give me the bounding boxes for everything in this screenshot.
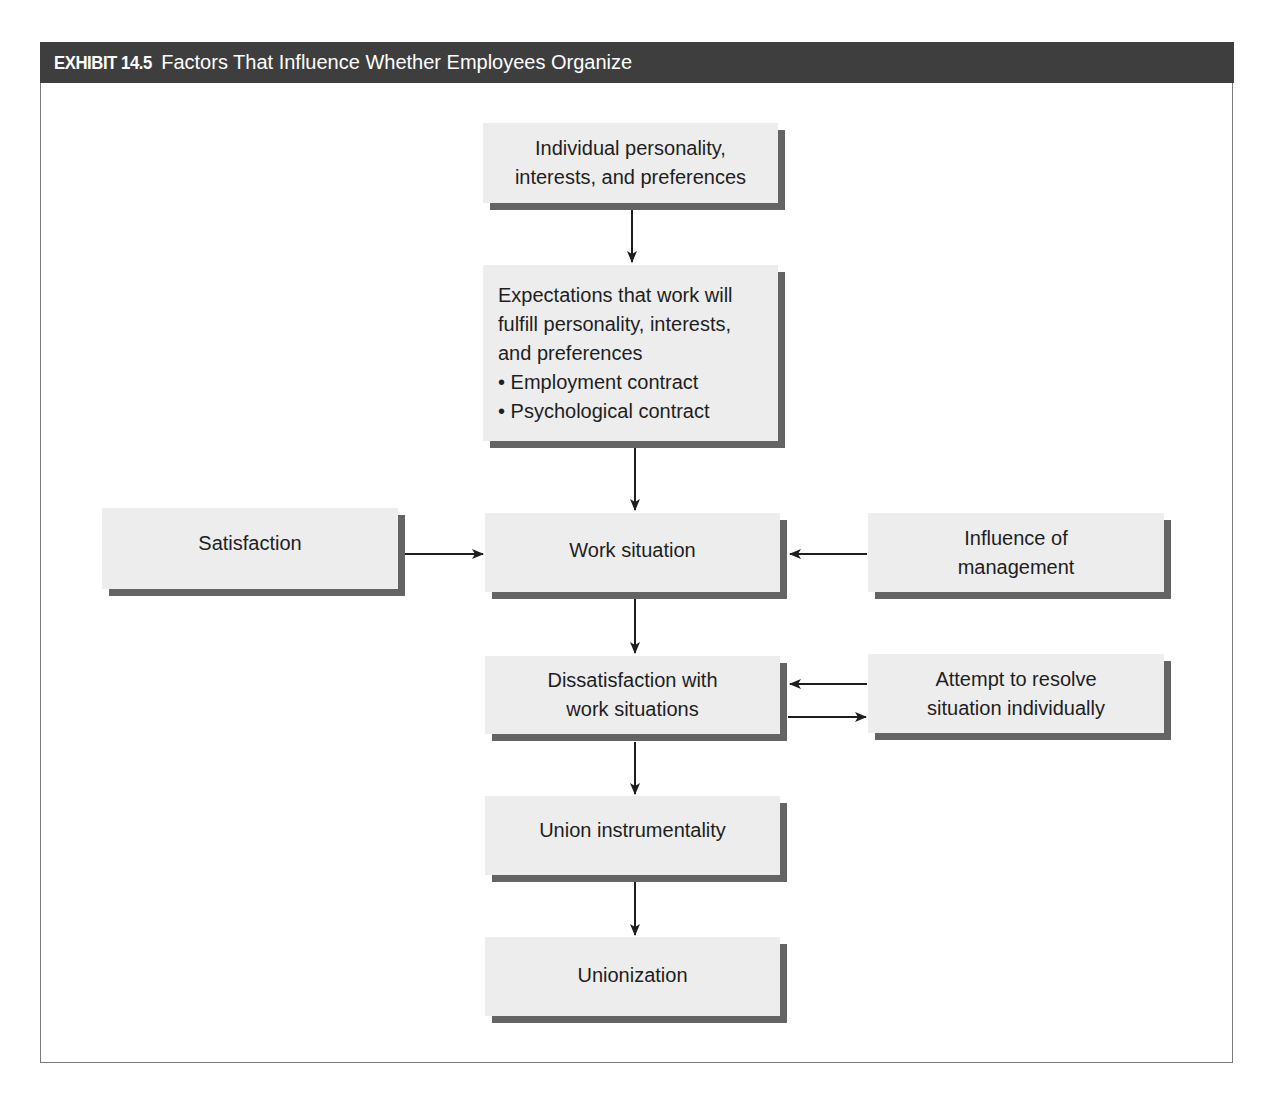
node-individual: Individual personality, interests, and p…	[483, 123, 778, 203]
node-text: management	[958, 553, 1075, 582]
node-text: situation individually	[927, 694, 1105, 723]
exhibit-header: EXHIBIT 14.5 Factors That Influence Whet…	[40, 42, 1234, 83]
exhibit-label: EXHIBIT 14.5	[54, 52, 152, 74]
node-unionization: Unionization	[485, 937, 780, 1016]
node-attempt: Attempt to resolve situation individuall…	[868, 654, 1164, 733]
node-text: Attempt to resolve	[935, 665, 1096, 694]
node-expectations: Expectations that work will fulfill pers…	[483, 265, 778, 441]
node-satisfaction: Satisfaction	[102, 508, 398, 589]
node-text: and preferences	[498, 339, 643, 368]
node-text: interests, and preferences	[515, 163, 746, 192]
node-influence: Influence of management	[868, 513, 1164, 592]
node-text: Satisfaction	[198, 529, 301, 558]
node-text: Dissatisfaction with	[547, 666, 717, 695]
node-text: Unionization	[577, 961, 687, 990]
node-text: Expectations that work will	[498, 281, 733, 310]
node-text: Work situation	[569, 536, 695, 565]
node-text: Influence of	[964, 524, 1067, 553]
exhibit-title: Factors That Influence Whether Employees…	[161, 51, 632, 74]
node-bullet: • Employment contract	[498, 368, 698, 397]
node-text: Union instrumentality	[539, 816, 726, 845]
node-dissatisfaction: Dissatisfaction with work situations	[485, 656, 780, 734]
node-text: fulfill personality, interests,	[498, 310, 731, 339]
node-bullet: • Psychological contract	[498, 397, 710, 426]
node-work-situation: Work situation	[485, 513, 780, 592]
node-text: Individual personality,	[535, 134, 726, 163]
node-union-instrumentality: Union instrumentality	[485, 796, 780, 875]
node-text: work situations	[566, 695, 698, 724]
